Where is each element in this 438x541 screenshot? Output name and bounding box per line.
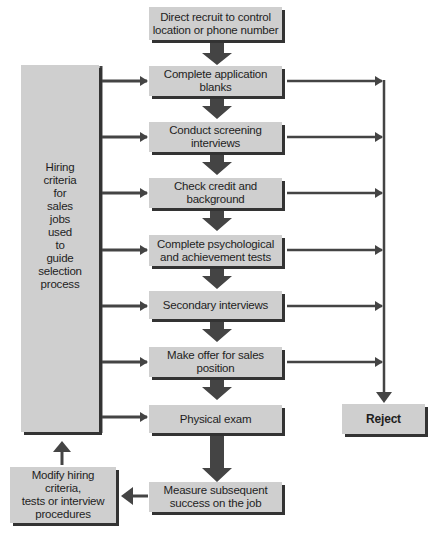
down-arrow-7: [202, 377, 232, 400]
down-arrow-3: [202, 152, 232, 175]
down-arrow-1: [202, 43, 232, 65]
step-secondary-interviews: Secondary interviews: [149, 291, 282, 319]
reject-label: Reject: [366, 413, 401, 426]
modify-criteria-box: Modify hiring criteria, tests or intervi…: [10, 467, 116, 523]
down-arrow-4: [202, 208, 232, 231]
reject-connectors: [287, 80, 384, 393]
step-make-offer: Make offer for sales position: [149, 347, 282, 377]
down-arrow-8: [202, 436, 232, 482]
step-label: Conduct screening interviews: [169, 124, 262, 150]
down-arrow-2: [202, 96, 232, 119]
step-credit-background: Check credit and background: [149, 178, 282, 208]
step-label: Check credit and background: [174, 180, 257, 206]
step-label: Direct recruit to control location or ph…: [153, 11, 279, 37]
reject-box: Reject: [342, 404, 425, 434]
step-direct-recruit: Direct recruit to control location or ph…: [149, 7, 282, 40]
step-label: Measure subsequent success on the job: [164, 484, 268, 510]
step-label: Complete application blanks: [164, 68, 267, 94]
modify-label: Modify hiring criteria, tests or intervi…: [22, 469, 105, 521]
criteria-connectors: [101, 66, 147, 433]
step-label: Physical exam: [180, 413, 252, 426]
step-screening-interviews: Conduct screening interviews: [149, 122, 282, 152]
reject-down-arrow: [376, 392, 392, 403]
step-application-blanks: Complete application blanks: [149, 66, 282, 96]
criteria-label: Hiring criteria for sales jobs used to g…: [38, 161, 82, 291]
measure-to-modify-arrowhead: [121, 487, 133, 505]
step-label: Secondary interviews: [163, 299, 268, 312]
selection-process-flowchart: Direct recruit to control location or ph…: [0, 0, 438, 541]
down-arrow-5: [202, 266, 232, 289]
step-physical-exam: Physical exam: [149, 405, 282, 433]
step-psych-tests: Complete psychological and achievement t…: [149, 235, 282, 266]
step-measure-success: Measure subsequent success on the job: [149, 482, 282, 512]
modify-to-criteria-arrowhead: [53, 441, 71, 452]
step-label: Complete psychological and achievement t…: [157, 238, 274, 264]
hiring-criteria-box: Hiring criteria for sales jobs used to g…: [21, 65, 99, 432]
step-label: Make offer for sales position: [167, 349, 264, 375]
down-arrow-6: [202, 319, 232, 342]
